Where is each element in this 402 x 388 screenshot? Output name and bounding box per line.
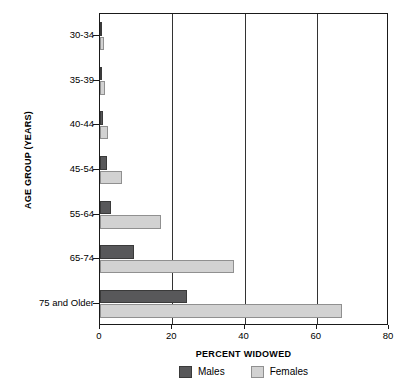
x-tick-mark-40	[244, 325, 245, 329]
bar-males-40-44	[100, 111, 103, 125]
x-tick-label-60: 60	[301, 331, 331, 341]
legend-swatch-males-icon	[179, 366, 192, 378]
bar-females-40-44	[100, 126, 108, 140]
y-tick-label-55-64: 55-64	[70, 209, 94, 219]
x-tick-label-20: 20	[156, 331, 186, 341]
chart-legend: MalesFemales	[99, 366, 388, 378]
y-tick-mark-30-34	[93, 35, 99, 36]
x-axis-title: PERCENT WIDOWED	[99, 349, 388, 359]
bar-females-55-64	[100, 215, 161, 229]
y-tick-label-35-39: 35-39	[70, 75, 94, 85]
x-tick-mark-20	[171, 325, 172, 329]
bar-males-55-64	[100, 201, 111, 215]
legend-label-females: Females	[270, 367, 308, 377]
y-tick-label-30-34: 30-34	[70, 30, 94, 40]
x-tick-label-40: 40	[229, 331, 259, 341]
bar-males-45-54	[100, 156, 107, 170]
y-axis-title: AGE GROUP (YEARS)	[23, 80, 33, 240]
y-tick-label-40-44: 40-44	[70, 119, 94, 129]
x-tick-label-0: 0	[84, 331, 114, 341]
x-tick-mark-0	[99, 325, 100, 329]
bar-males-75-and-Older	[100, 290, 187, 304]
y-tick-mark-65-74	[93, 258, 99, 259]
bar-females-30-34	[100, 37, 104, 51]
legend-label-males: Males	[198, 367, 225, 377]
bar-males-30-34	[100, 22, 102, 36]
y-tick-mark-75-and-Older	[93, 303, 99, 304]
bar-males-65-74	[100, 245, 134, 259]
y-tick-mark-35-39	[93, 80, 99, 81]
y-tick-label-45-54: 45-54	[70, 164, 94, 174]
y-tick-mark-40-44	[93, 124, 99, 125]
bars-layer	[100, 14, 387, 324]
legend-item-males[interactable]: Males	[179, 366, 225, 378]
bar-males-35-39	[100, 67, 102, 81]
y-tick-label-75-and-Older: 75 and Older	[39, 298, 94, 308]
bar-females-35-39	[100, 81, 105, 95]
plot-area	[99, 13, 388, 325]
x-tick-mark-80	[388, 325, 389, 329]
x-tick-label-80: 80	[373, 331, 402, 341]
bar-chart: AGE GROUP (YEARS) 30-3435-3940-4445-5455…	[0, 0, 402, 388]
y-tick-mark-45-54	[93, 169, 99, 170]
legend-swatch-females-icon	[251, 366, 264, 378]
bar-females-45-54	[100, 171, 122, 185]
y-tick-mark-55-64	[93, 214, 99, 215]
bar-females-75-and-Older	[100, 304, 342, 318]
bar-females-65-74	[100, 260, 234, 274]
y-tick-label-65-74: 65-74	[70, 253, 94, 263]
legend-item-females[interactable]: Females	[251, 366, 308, 378]
x-tick-mark-60	[316, 325, 317, 329]
